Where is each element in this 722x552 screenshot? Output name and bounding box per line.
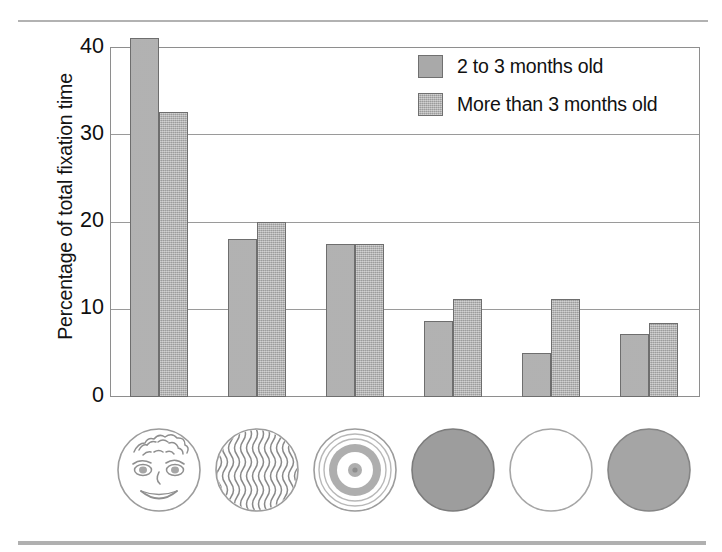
bar-face-more3months [159,112,188,397]
bar-squiggle-more3months [257,222,286,397]
y-tick-10: 10 [4,297,104,319]
legend-label-2to3months: 2 to 3 months old [457,55,603,78]
bullseye-stimulus [310,424,400,516]
stimuli-row [110,424,700,524]
bar-bullseye-more3months [355,244,384,397]
white-disc-icon [506,424,596,516]
gray-disc-stimulus [604,424,694,516]
solid-gray-disc-icon [408,424,498,516]
face-icon [114,424,204,516]
bar-graydisc1-2to3months [424,321,453,397]
legend-label-more3months: More than 3 months old [457,93,657,116]
squiggle-stimulus [212,424,302,516]
y-tick-20: 20 [4,210,104,232]
bar-graydisc1-more3months [453,299,482,397]
bar-bullseye-2to3months [326,244,355,397]
figure: Percentage of total fixation time 40 30 … [0,0,722,552]
legend: 2 to 3 months old More than 3 months old [418,52,693,128]
squiggle-icon [212,424,302,516]
bar-face-2to3months [130,38,159,397]
legend-item-2to3months: 2 to 3 months old [418,52,693,80]
bullseye-icon [310,424,400,516]
bar-squiggle-2to3months [228,239,257,397]
y-tick-40: 40 [4,36,104,58]
y-tick-0: 0 [4,385,104,407]
face-stimulus [114,424,204,516]
solid-gray-disc-stimulus [408,424,498,516]
legend-swatch-icon-more3months [418,93,443,116]
y-tick-30: 30 [4,123,104,145]
legend-item-more3months: More than 3 months old [418,90,693,118]
bar-graydisc2-more3months [649,323,678,397]
y-tick-labels: 40 30 20 10 0 [0,0,104,552]
legend-swatch-icon-2to3months [418,55,443,78]
bar-graydisc2-2to3months [620,334,649,397]
bar-whitedisc-more3months [551,299,580,397]
white-disc-stimulus [506,424,596,516]
bar-whitedisc-2to3months [522,353,551,397]
gray-disc-icon [604,424,694,516]
